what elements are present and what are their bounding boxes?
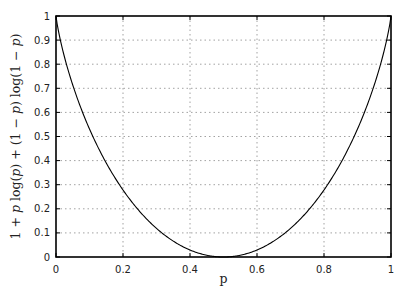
x-tick-label: 1 [388,264,394,275]
y-tick-label: 0.8 [34,59,50,70]
y-tick-label: 0.7 [34,83,50,94]
y-tick-label: 0.1 [34,227,50,238]
tick-labels: 00.20.40.60.8100.10.20.30.40.50.60.70.80… [34,11,394,276]
y-tick-label: 0.5 [34,131,50,142]
x-tick-label: 0.8 [316,264,332,275]
y-tick-label: 0 [44,252,50,263]
x-tick-label: 0.4 [182,264,198,275]
y-tick-label: 0.6 [34,107,50,118]
y-axis-label: 1 + p log(p) + (1 − p) log(1 − p) [8,34,23,240]
y-tick-label: 0.4 [34,155,50,166]
x-tick-label: 0 [53,264,59,275]
x-tick-label: 0.2 [115,264,131,275]
chart: 00.20.40.60.8100.10.20.30.40.50.60.70.80… [0,0,403,297]
x-tick-label: 0.6 [249,264,265,275]
y-tick-label: 0.9 [34,35,50,46]
x-axis-label: p [219,271,227,286]
y-tick-label: 0.2 [34,203,50,214]
grid-lines [56,16,391,257]
y-tick-label: 1 [44,11,50,22]
y-tick-label: 0.3 [34,179,50,190]
